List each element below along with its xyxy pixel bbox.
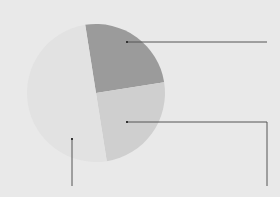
pie-slices — [27, 24, 165, 162]
pie-chart — [0, 0, 280, 197]
pie-slice-segment-a — [85, 24, 164, 93]
callout-anchor-dot — [71, 138, 73, 140]
callout-anchor-dot — [126, 121, 128, 123]
callout-anchor-dot — [126, 41, 128, 43]
